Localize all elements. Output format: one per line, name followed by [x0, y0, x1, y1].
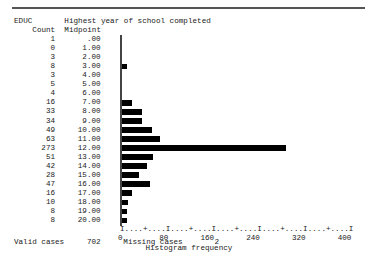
histogram-row: 47 16.00 [0, 180, 377, 189]
histogram-bar [122, 163, 147, 169]
spss-histogram-output: EDUC Highest year of school completed Co… [0, 17, 377, 253]
histogram-bar [122, 218, 127, 224]
histogram-row: 8 19.00 [0, 207, 377, 216]
histogram-row: 3 4.00 [0, 71, 377, 80]
top-divider [12, 7, 365, 9]
histogram-row-label: 4 6.00 [14, 89, 101, 98]
histogram-row-label: 3 4.00 [14, 71, 101, 80]
histogram-row: 5 5.00 [0, 80, 377, 89]
histogram-row: 34 9.00 [0, 117, 377, 126]
histogram-row-label: 8 20.00 [14, 216, 101, 225]
histogram-row-label: 5 5.00 [14, 80, 101, 89]
histogram-row-label: 8 3.00 [14, 62, 101, 71]
column-header-line: Count Midpoint [0, 26, 377, 35]
histogram-bar [122, 64, 127, 70]
x-axis-tick-row: I....+....I....+....I....+....I....+....… [0, 225, 377, 234]
histogram-row: 28 15.00 [0, 171, 377, 180]
variable-title-line: EDUC Highest year of school completed [0, 17, 377, 26]
histogram-row: 1 .00 [0, 35, 377, 44]
histogram-bar [122, 154, 153, 160]
histogram-row: 273 12.00 [0, 144, 377, 153]
histogram-row: 33 8.00 [0, 107, 377, 116]
histogram-row: 49 10.00 [0, 126, 377, 135]
histogram-row-label: 42 14.00 [14, 162, 101, 171]
histogram-bar [122, 145, 286, 151]
histogram-bar [122, 127, 152, 133]
histogram-bar [122, 200, 128, 206]
histogram-bar [122, 118, 142, 124]
histogram-row: 3 2.00 [0, 53, 377, 62]
histogram-row-label: 34 9.00 [14, 117, 101, 126]
histogram-bar [122, 109, 142, 115]
histogram-bar [122, 181, 150, 187]
histogram-bar [122, 209, 127, 215]
histogram-bar [122, 190, 132, 196]
histogram-row-label: 16 17.00 [14, 189, 101, 198]
histogram-row: 51 13.00 [0, 153, 377, 162]
histogram-row-label: 51 13.00 [14, 153, 101, 162]
histogram-row-label: 16 7.00 [14, 98, 101, 107]
histogram-rows: 1 .00 0 1.00 3 2.00 8 3.00 3 4.00 5 5.00… [0, 35, 377, 225]
histogram-row-label: 10 18.00 [14, 198, 101, 207]
histogram-bar [122, 100, 132, 106]
histogram-row: 42 14.00 [0, 162, 377, 171]
histogram-row-label: 49 10.00 [14, 126, 101, 135]
histogram-row: 0 1.00 [0, 44, 377, 53]
histogram-row: 63 11.00 [0, 135, 377, 144]
histogram-row-label: 1 .00 [14, 35, 101, 44]
histogram-row: 10 18.00 [0, 198, 377, 207]
histogram-row: 8 20.00 [0, 216, 377, 225]
histogram-row-label: 33 8.00 [14, 107, 101, 116]
histogram-row: 16 17.00 [0, 189, 377, 198]
histogram-row-label: 8 19.00 [14, 207, 101, 216]
histogram-row-label: 28 15.00 [14, 171, 101, 180]
case-summary-footer: Valid cases 702 Missing cases 2 [14, 238, 219, 247]
histogram-row-label: 47 16.00 [14, 180, 101, 189]
histogram-bar [122, 136, 160, 142]
histogram-row: 8 3.00 [0, 62, 377, 71]
histogram-bar [122, 172, 139, 178]
histogram-row-label: 273 12.00 [14, 144, 101, 153]
histogram-row: 4 6.00 [0, 89, 377, 98]
histogram-row-label: 3 2.00 [14, 53, 101, 62]
histogram-row-label: 0 1.00 [14, 44, 101, 53]
histogram-row-label: 63 11.00 [14, 135, 101, 144]
histogram-row: 16 7.00 [0, 98, 377, 107]
